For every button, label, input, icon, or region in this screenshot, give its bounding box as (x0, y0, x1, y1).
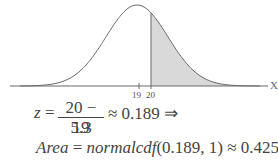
normal-curve (20, 5, 260, 86)
area-args: (0.189, 1) (156, 138, 223, 157)
area-equation: Area = normalcdf(0.189, 1) ≈ 0.4250 (36, 138, 278, 158)
z-result: ≈ 0.189 ⇒ (108, 103, 178, 124)
fraction-denominator: 5.3 (58, 118, 104, 138)
area-label: Area (36, 138, 68, 157)
tick-label-19: 19 (132, 90, 141, 100)
shaded-area (151, 13, 255, 86)
area-function: normalcdf (87, 138, 157, 157)
normal-distribution-chart (0, 0, 278, 100)
area-result: ≈ 0.4250 (227, 138, 278, 157)
x-axis-label: X (270, 79, 278, 91)
z-variable: z = (34, 103, 54, 123)
tick-label-20: 20 (146, 90, 155, 100)
